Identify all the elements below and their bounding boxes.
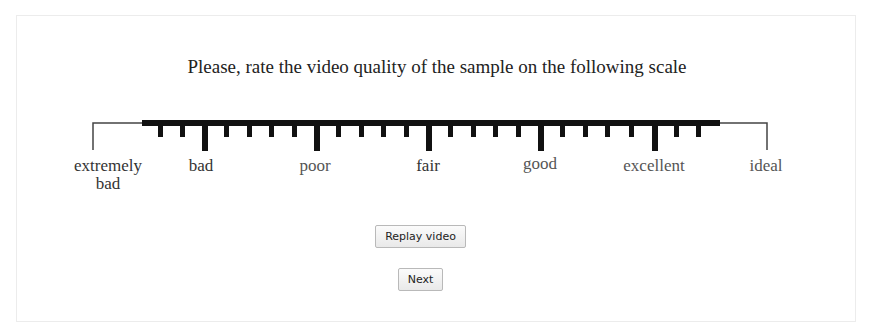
- label-line: bad: [74, 175, 142, 193]
- scale-label-bad: bad: [189, 157, 214, 175]
- scale-label-good: good: [523, 155, 557, 173]
- scale-label-ideal: ideal: [749, 157, 782, 175]
- scale-label-fair: fair: [416, 157, 440, 175]
- label-line: extremely: [74, 157, 142, 175]
- scale-label-excellent: excellent: [623, 157, 684, 175]
- scale-left-end: [93, 123, 142, 150]
- scale-label-poor: poor: [299, 157, 330, 175]
- scale-label-extremely-bad: extremely bad: [74, 157, 142, 193]
- replay-video-button[interactable]: Replay video: [375, 225, 466, 248]
- scale-ticks: [158, 123, 701, 151]
- next-button[interactable]: Next: [398, 268, 443, 291]
- scale-right-end: [720, 123, 767, 150]
